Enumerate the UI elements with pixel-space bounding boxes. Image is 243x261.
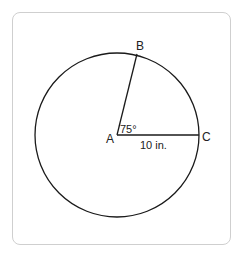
radius-length-label: 10 in. bbox=[140, 139, 167, 151]
point-c-label: C bbox=[202, 130, 211, 144]
angle-label: 75° bbox=[120, 123, 137, 135]
point-b-label: B bbox=[136, 39, 144, 53]
center-a-label: A bbox=[106, 132, 114, 146]
circle-diagram: B C A 75° 10 in. bbox=[0, 0, 243, 261]
